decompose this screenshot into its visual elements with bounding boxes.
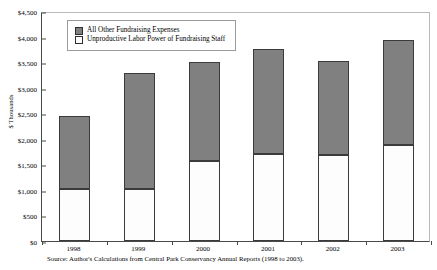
bar-segment-all-other-expenses bbox=[59, 116, 90, 189]
white-swatch-icon bbox=[75, 36, 83, 44]
y-tick-mark bbox=[42, 13, 46, 14]
y-tick-label: $3,000 bbox=[18, 86, 42, 94]
y-tick-label: $500 bbox=[23, 213, 42, 221]
x-axis-label-2000: 2000 bbox=[173, 245, 233, 253]
bar-segment-unproductive-labor bbox=[189, 161, 220, 241]
bar-segment-unproductive-labor bbox=[253, 154, 284, 241]
legend-label: All Other Fundraising Expenses bbox=[87, 27, 179, 34]
y-tick-mark bbox=[42, 140, 46, 141]
plot-area: $4,500$4,000$3,500$3,000$2,500$2,000$1,5… bbox=[41, 12, 430, 242]
y-tick-label: $2,000 bbox=[18, 137, 42, 145]
dark-gray-swatch-icon bbox=[75, 27, 83, 35]
y-tick-mark bbox=[42, 191, 46, 192]
bar-2002 bbox=[318, 61, 349, 241]
fundraising-expenses-chart: $ Thousands $4,500$4,000$3,500$3,000$2,5… bbox=[0, 0, 437, 270]
bar-segment-all-other-expenses bbox=[189, 62, 220, 161]
y-tick-label: $1,000 bbox=[18, 188, 42, 196]
y-tick-label: $1,500 bbox=[18, 162, 42, 170]
bar-segment-unproductive-labor bbox=[124, 189, 155, 241]
bar-2001 bbox=[253, 49, 284, 241]
x-tick-mark bbox=[431, 241, 432, 245]
bar-segment-unproductive-labor bbox=[59, 189, 90, 241]
bar-2003 bbox=[383, 40, 414, 241]
x-axis-label-2003: 2003 bbox=[368, 245, 428, 253]
y-tick-label: $0 bbox=[30, 239, 42, 247]
legend-label: Unproductive Labor Power of Fundraising … bbox=[87, 36, 225, 43]
bar-segment-all-other-expenses bbox=[318, 61, 349, 155]
bar-segment-all-other-expenses bbox=[383, 40, 414, 146]
bar-2000 bbox=[189, 62, 220, 241]
y-tick-mark bbox=[42, 166, 46, 167]
source-note: Source: Author's Calculations from Centr… bbox=[47, 255, 304, 262]
x-axis-label-2001: 2001 bbox=[238, 245, 298, 253]
y-tick-label: $4,000 bbox=[18, 35, 42, 43]
legend-item-unproductive-labor-power: Unproductive Labor Power of Fundraising … bbox=[75, 36, 225, 44]
y-tick-label: $3,500 bbox=[18, 60, 42, 68]
chart-legend: All Other Fundraising Expenses Unproduct… bbox=[67, 20, 236, 51]
y-tick-label: $2,500 bbox=[18, 111, 42, 119]
x-axis-label-1999: 1999 bbox=[108, 245, 168, 253]
legend-item-all-other-fundraising-expenses: All Other Fundraising Expenses bbox=[75, 27, 225, 35]
bar-1999 bbox=[124, 73, 155, 241]
y-axis-title: $ Thousands bbox=[7, 76, 14, 148]
y-tick-mark bbox=[42, 64, 46, 65]
x-axis-label-2002: 2002 bbox=[303, 245, 363, 253]
x-axis-label-1998: 1998 bbox=[43, 245, 103, 253]
y-tick-mark bbox=[42, 217, 46, 218]
bar-segment-all-other-expenses bbox=[124, 73, 155, 189]
y-tick-label: $4,500 bbox=[18, 9, 42, 17]
bar-segment-all-other-expenses bbox=[253, 49, 284, 154]
y-tick-mark bbox=[42, 38, 46, 39]
bar-1998 bbox=[59, 116, 90, 241]
bar-segment-unproductive-labor bbox=[318, 155, 349, 241]
y-tick-mark bbox=[42, 115, 46, 116]
bar-segment-unproductive-labor bbox=[383, 145, 414, 241]
y-tick-mark bbox=[42, 89, 46, 90]
